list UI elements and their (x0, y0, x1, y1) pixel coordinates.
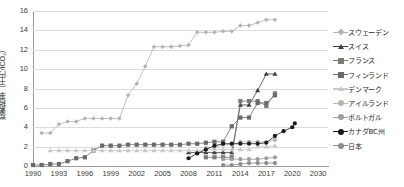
y-tick-label: 14 (0, 26, 28, 34)
legend-item-7[interactable]: ポルトガル (333, 110, 404, 124)
gridline (33, 147, 328, 148)
square-marker-icon (333, 70, 348, 80)
y-tick-label: 16 (0, 7, 28, 15)
chart-legend: スウェーデンスイスフランスフィンランドデンマークアイルランドポルトガルカナダBC… (333, 25, 404, 153)
square-marker-icon (333, 55, 348, 65)
triangle-marker-icon (333, 84, 348, 94)
legend-label: スイス (348, 41, 368, 51)
y-tick-label: 0 (0, 162, 28, 170)
legend-item-8[interactable]: カナダBC州 (333, 124, 404, 138)
y-tick-label: 2 (0, 143, 28, 151)
legend-item-6[interactable]: アイルランド (333, 96, 404, 110)
circle-marker-icon (333, 141, 348, 151)
legend-item-3[interactable]: フランス (333, 53, 404, 67)
gridline (33, 30, 328, 31)
y-tick-label: 8 (0, 85, 28, 93)
diamond-marker-icon (333, 27, 348, 37)
gridline (33, 11, 328, 12)
gridline (33, 50, 328, 51)
x-tick-label: 2030 (301, 170, 335, 178)
legend-label: フランス (348, 55, 375, 65)
y-tick-label: 12 (0, 46, 28, 54)
legend-label: スウェーデン (348, 27, 389, 37)
gridline (33, 127, 328, 128)
circle-marker-icon (333, 126, 348, 136)
carbon-tax-rate-chart: 炭素税率（千円/tCO₂） 0246810121416 199019931996… (0, 0, 404, 187)
legend-label: 日本 (348, 141, 362, 151)
legend-label: ポルトガル (348, 112, 382, 122)
triangle-marker-icon (333, 41, 348, 51)
legend-item-2[interactable]: スイス (333, 39, 404, 53)
y-tick-label: 4 (0, 123, 28, 131)
circle-marker-icon (333, 112, 348, 122)
plot-area (33, 11, 328, 166)
legend-label: カナダBC州 (348, 126, 384, 136)
x-axis-line (33, 166, 329, 167)
legend-label: アイルランド (348, 98, 389, 108)
y-tick-label: 6 (0, 104, 28, 112)
circle-marker-icon (333, 98, 348, 108)
y-tick-label: 10 (0, 65, 28, 73)
legend-item-9[interactable]: 日本 (333, 139, 404, 153)
legend-label: デンマーク (348, 84, 382, 94)
legend-item-4[interactable]: フィンランド (333, 68, 404, 82)
legend-label: フィンランド (348, 70, 389, 80)
legend-item-1[interactable]: スウェーデン (333, 25, 404, 39)
gridline (33, 69, 328, 70)
gridline (33, 108, 328, 109)
gridline (33, 89, 328, 90)
legend-item-5[interactable]: デンマーク (333, 82, 404, 96)
